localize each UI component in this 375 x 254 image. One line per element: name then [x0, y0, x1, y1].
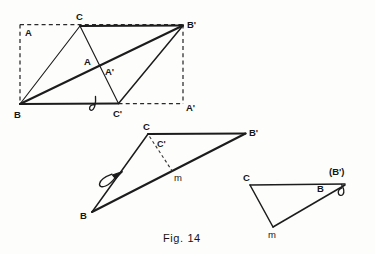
label-Aprime-inner: A' [105, 66, 114, 77]
label-A-topleft: A [25, 27, 32, 38]
label-Bprime-top: B' [187, 19, 196, 30]
segment-B-Bprime [20, 26, 183, 105]
label-mid-C: C [143, 121, 150, 132]
label-mid-B: B [80, 210, 87, 221]
segment-B-Cprime [20, 104, 119, 105]
label-mid-m: m [174, 172, 182, 183]
label-B-bottomleft: B [14, 109, 21, 120]
figure-caption: Fig. 14 [163, 232, 201, 244]
top-parallelogram-panel: A C B' A A' B C' A' [14, 11, 196, 120]
right-triangle-panel: C (B') B m [243, 166, 345, 240]
segment-C-Bprime [80, 26, 183, 27]
middle-triangle-panel: C C' B' m B [80, 121, 258, 221]
segment-right-C-Bprime [250, 184, 345, 185]
rotation-hook-icon-right [338, 185, 344, 196]
label-C-top: C [76, 11, 83, 22]
label-mid-Bprime: B' [249, 127, 258, 138]
segment-mid-B-Bprime [92, 134, 246, 213]
figure-container: A C B' A A' B C' A' C C' B' m B [0, 0, 375, 254]
label-Aprime-bottom: A' [186, 102, 195, 113]
label-right-C: C [243, 172, 250, 183]
label-mid-Cprime: C' [157, 139, 166, 149]
segment-right-m-Bprime [273, 185, 345, 227]
segment-right-C-m [250, 185, 273, 227]
label-right-m: m [268, 229, 276, 240]
label-right-B: B [317, 183, 324, 194]
fig-14-diagram: A C B' A A' B C' A' C C' B' m B [0, 0, 375, 254]
label-right-Bprime-paren: (B') [329, 166, 344, 177]
label-A-inner: A [84, 56, 91, 67]
segment-mid-C-Bprime [148, 134, 246, 135]
segment-Cprime-Bprime [119, 26, 184, 104]
label-Cprime-bottom: C' [113, 108, 122, 119]
